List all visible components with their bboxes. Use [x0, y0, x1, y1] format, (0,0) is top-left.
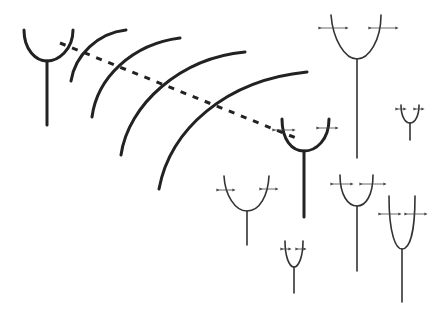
antenna-icon	[320, 15, 397, 158]
antenna-icon	[332, 175, 385, 271]
wavefronts	[71, 30, 307, 189]
antenna-icon	[380, 196, 426, 302]
antenna-diagram	[0, 0, 445, 321]
antenna-icon	[282, 241, 305, 293]
signal-path	[60, 43, 296, 138]
antenna-icon	[397, 105, 423, 140]
receiver-antenna-icon	[274, 119, 337, 217]
antenna-icon	[218, 176, 277, 245]
